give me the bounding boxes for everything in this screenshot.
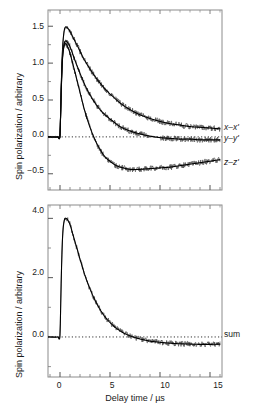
curve-label-yy: y–y' <box>224 133 239 143</box>
bottom-panel: Spin polarization / arbitrary 4.0 2.0 0.… <box>0 200 255 414</box>
curve-label-zz: z–z' <box>224 157 239 167</box>
curve-label-xx: x–x' <box>224 122 239 132</box>
bottom-panel-xtick-3: 10 <box>155 380 175 390</box>
curve-label-sum: sum <box>224 329 240 339</box>
top-panel: Spin polarization / arbitrary 1.5 1.0 0.… <box>0 0 255 200</box>
figure-spin-polarization: Spin polarization / arbitrary 1.5 1.0 0.… <box>0 0 255 414</box>
bottom-panel-xtick-2: 5 <box>102 380 122 390</box>
bottom-panel-xtick-4: 15 <box>208 380 228 390</box>
bottom-panel-x-axis-label: Delay time / µs <box>85 393 185 403</box>
bottom-panel-xtick-1: 0 <box>49 380 69 390</box>
top-panel-plot <box>0 0 255 200</box>
